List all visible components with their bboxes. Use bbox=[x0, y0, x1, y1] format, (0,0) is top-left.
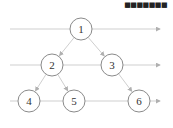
edge-1-3 bbox=[88, 37, 104, 56]
tree-node-5: 5 bbox=[63, 90, 85, 112]
tree-node-3: 3 bbox=[101, 54, 123, 76]
node-label: 1 bbox=[78, 23, 84, 35]
node-label: 6 bbox=[136, 95, 142, 107]
node-label: 3 bbox=[109, 59, 115, 71]
node-label: 4 bbox=[26, 95, 32, 107]
edge-2-5 bbox=[58, 74, 68, 90]
tree-node-1: 1 bbox=[70, 18, 92, 40]
binary-tree-diagram: 123456 bbox=[0, 0, 173, 128]
edge-3-6 bbox=[119, 74, 132, 92]
edge-1-2 bbox=[60, 38, 75, 56]
node-label: 5 bbox=[71, 95, 77, 107]
tree-node-2: 2 bbox=[41, 54, 63, 76]
tree-node-6: 6 bbox=[128, 90, 150, 112]
tree-node-4: 4 bbox=[18, 90, 40, 112]
node-label: 2 bbox=[49, 59, 55, 71]
edge-2-4 bbox=[35, 74, 46, 91]
